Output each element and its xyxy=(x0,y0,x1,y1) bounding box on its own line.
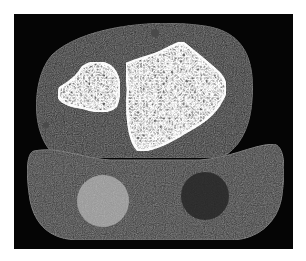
vessel-marker xyxy=(43,122,49,128)
calibration-phantom-bright xyxy=(77,175,129,227)
calibration-region-dark xyxy=(181,172,229,220)
tendon-marker xyxy=(151,29,159,37)
ct-scan-image xyxy=(0,0,306,261)
